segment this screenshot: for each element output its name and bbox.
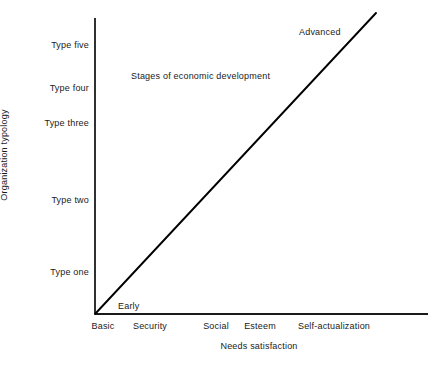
x-axis-title: Needs satisfaction [220,341,297,351]
annotation-advanced: Advanced [299,27,341,37]
y-axis-title: Organization typology [0,109,9,200]
y-tick-label-type-four: Type four [50,83,94,94]
x-tick-label-social: Social [203,321,229,332]
development-trend-line [95,13,376,314]
chart-figure: Type five Type four Type three Type two … [0,0,434,372]
x-tick-label-basic: Basic [91,321,114,332]
y-tick-label-type-three: Type three [44,118,94,129]
x-tick-label-esteem: Esteem [244,321,276,332]
y-tick-label-type-two: Type two [51,195,94,206]
annotation-early: Early [118,301,140,311]
y-tick-label-type-five: Type five [51,40,94,51]
annotation-stages: Stages of economic development [131,71,270,81]
chart-plot-area [0,0,434,372]
y-tick-label-type-one: Type one [50,267,94,278]
x-tick-label-security: Security [133,321,167,332]
x-tick-label-self-actualization: Self-actualization [298,321,370,332]
